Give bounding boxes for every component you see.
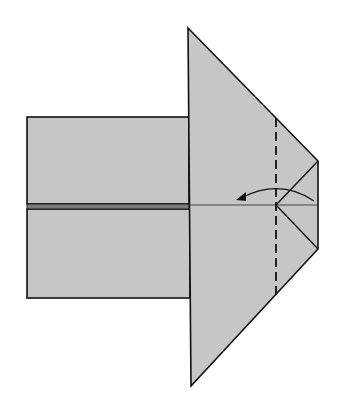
left-body-bottom-panel: [27, 209, 190, 298]
left-body: [27, 117, 190, 298]
triangle-flap: [188, 28, 318, 386]
center-gap-band: [27, 204, 189, 209]
origami-diagram: [0, 0, 342, 416]
left-body-top-panel: [27, 117, 189, 204]
